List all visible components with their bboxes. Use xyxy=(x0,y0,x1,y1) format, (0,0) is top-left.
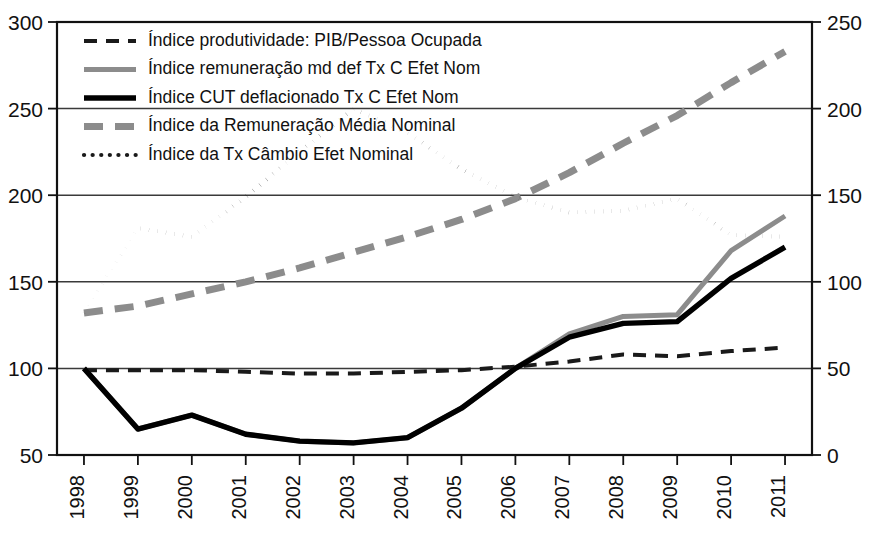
left-axis-labels-group: 50100150200250300 xyxy=(8,11,43,467)
right-axis-ticks-group xyxy=(812,22,821,455)
x-axis-tick-label: 2001 xyxy=(228,475,250,520)
x-axis-tick-label: 2002 xyxy=(282,475,304,520)
right-axis-tick-label: 50 xyxy=(827,357,850,380)
legend-label: Índice remuneração md def Tx C Efet Nom xyxy=(148,58,480,78)
right-axis-tick-label: 150 xyxy=(827,184,862,207)
right-axis-tick-label: 250 xyxy=(827,11,862,34)
x-axis-tick-label: 2004 xyxy=(390,475,412,520)
series-line xyxy=(84,348,785,374)
series-line xyxy=(84,247,785,443)
right-axis-tick-label: 0 xyxy=(827,444,839,467)
x-axis-labels-group: 1998199920002001200220032004200520062007… xyxy=(66,475,789,520)
x-axis-tick-label: 2011 xyxy=(767,475,789,518)
legend-label: Índice CUT deflacionado Tx C Efet Nom xyxy=(148,87,459,107)
legend-label: Índice da Tx Câmbio Efet Nominal xyxy=(148,144,413,164)
x-axis-tick-label: 2007 xyxy=(551,475,573,520)
x-axis-tick-label: 2010 xyxy=(713,475,735,520)
legend-label: Índice da Remuneração Média Nominal xyxy=(148,115,455,135)
x-axis-tick-label: 2000 xyxy=(174,475,196,520)
left-axis-tick-label: 100 xyxy=(8,357,43,380)
x-axis-tick-label: 2005 xyxy=(443,475,465,520)
left-axis-ticks-group xyxy=(48,22,57,455)
x-axis-tick-label: 1999 xyxy=(120,475,142,520)
right-axis-labels-group: 050100150200250 xyxy=(827,11,862,467)
x-axis-tick-label: 2008 xyxy=(605,475,627,520)
left-axis-tick-label: 50 xyxy=(20,444,43,467)
legend-label: Índice produtividade: PIB/Pessoa Ocupada xyxy=(148,30,482,50)
x-axis-tick-label: 2006 xyxy=(497,475,519,520)
left-axis-tick-label: 200 xyxy=(8,184,43,207)
x-axis-tick-label: 2009 xyxy=(659,475,681,520)
right-axis-tick-label: 100 xyxy=(827,271,862,294)
line-chart-canvas: 50100150200250300 050100150200250 199819… xyxy=(0,0,883,539)
left-axis-tick-label: 300 xyxy=(8,11,43,34)
chart-legend: Índice produtividade: PIB/Pessoa Ocupada… xyxy=(84,30,482,164)
left-axis-tick-label: 250 xyxy=(8,98,43,121)
series-line xyxy=(84,216,785,443)
chart-figure: 50100150200250300 050100150200250 199819… xyxy=(0,0,883,539)
left-axis-tick-label: 150 xyxy=(8,271,43,294)
data-series-group xyxy=(84,51,785,442)
x-axis-tick-label: 1998 xyxy=(66,475,88,520)
x-axis-ticks-group xyxy=(84,455,785,465)
right-axis-tick-label: 200 xyxy=(827,98,862,121)
x-axis-tick-label: 2003 xyxy=(336,475,358,520)
